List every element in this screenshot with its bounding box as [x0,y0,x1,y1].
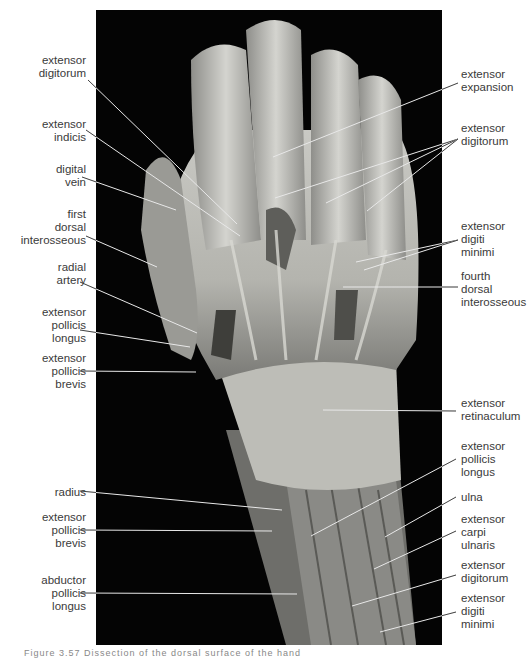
label-right-extensor-carpi-ulnaris: extensor carpi ulnaris [461,513,505,552]
label-left-digital-vein: digital vein [56,163,86,189]
label-left-radius: radius [55,486,86,499]
leader-line-left-10 [80,593,297,594]
leader-line-left-7 [80,371,196,372]
leader-line-right-7-1-outer [442,497,456,505]
label-left-first-dorsal-interosseous: first dorsal interosseous [21,208,86,247]
label-left-abductor-pollicis-longus: abductor pollicis longus [41,574,86,613]
leader-line-right-9-1-outer [442,575,456,579]
leader-line-left-9 [80,530,272,531]
label-right-extensor-pollicis-longus: extensor pollicis longus [461,440,505,479]
leader-line-left-4 [86,236,157,267]
leader-line-left-1 [88,80,237,224]
leader-line-right-1-1 [273,83,458,157]
leader-line-right-8-1-outer [442,531,456,537]
leader-line-left-4-outer [86,236,96,240]
leader-line-left-2-outer [86,130,96,137]
label-right-extensor-digiti-minimi: extensor digiti minimi [461,220,505,259]
label-right-extensor-digitorum: extensor digitorum [461,122,508,148]
label-right-extensor-expansion: extensor expansion [461,68,513,94]
leader-line-left-2 [86,130,240,236]
figure-caption: Figure 3.57 Dissection of the dorsal sur… [24,648,301,658]
label-right-extensor-retinaculum: extensor retinaculum [461,397,520,423]
leader-line-left-1-outer [88,80,96,88]
leader-line-left-6 [80,330,190,347]
leader-line-right-1-1-outer [442,83,458,89]
label-right-extensor-digitorum: extensor digitorum [461,559,508,585]
label-left-extensor-digitorum: extensor digitorum [39,54,86,80]
leader-line-right-2-2 [326,139,458,203]
leader-line-right-2-1 [275,139,458,198]
label-left-extensor-indicis: extensor indicis [42,118,86,144]
label-left-radial-artery: radial artery [57,261,86,287]
leader-line-left-8 [80,491,282,510]
leader-line-right-6-1-outer [442,459,456,466]
label-right-ulna: ulna [461,491,483,504]
leader-line-right-6-1 [311,459,456,536]
label-right-extensor-digiti-minimi: extensor digiti minimi [461,592,505,631]
label-left-extensor-pollicis-brevis: extensor pollicis brevis [42,511,86,550]
label-left-extensor-pollicis-brevis: extensor pollicis brevis [42,352,86,391]
leader-line-left-5 [80,282,197,333]
label-right-fourth-dorsal-interosseous: fourth dorsal interosseous [461,270,526,309]
leader-line-right-9-1 [352,575,456,606]
leader-line-right-10-1-outer [442,612,456,616]
leader-line-right-5-1 [323,410,456,411]
label-left-extensor-pollicis-longus: extensor pollicis longus [42,306,86,345]
